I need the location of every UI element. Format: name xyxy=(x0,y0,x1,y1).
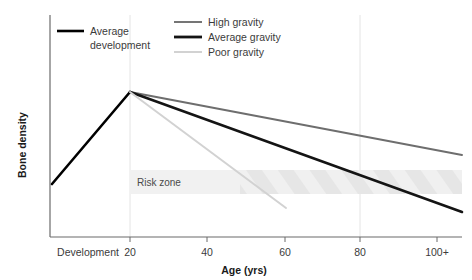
x-axis-tick-labels: Development 20 40 60 80 100+ xyxy=(57,246,449,258)
risk-zone-band: Risk zone xyxy=(130,170,462,194)
x-tick-label-60: 60 xyxy=(279,246,291,258)
x-tick-label-80: 80 xyxy=(354,246,366,258)
x-tick-label-development: Development xyxy=(57,246,119,258)
legend-item-average-gravity[interactable]: Average gravity xyxy=(174,31,282,43)
legend-average-development[interactable]: Average development xyxy=(57,25,150,51)
x-tick-label-40: 40 xyxy=(201,246,213,258)
legend-gravity-group: High gravity Average gravity Poor gravit… xyxy=(174,16,282,58)
risk-zone-label: Risk zone xyxy=(137,177,181,188)
legend-label-average-development-line1: Average xyxy=(90,25,129,37)
x-axis-ticks xyxy=(130,237,437,242)
legend-item-high-gravity[interactable]: High gravity xyxy=(174,16,264,28)
x-tick-label-100plus: 100+ xyxy=(425,246,449,258)
chart-canvas: Risk zone Development 20 40 60 80 100+ A… xyxy=(0,0,472,280)
series-line-average-development xyxy=(52,92,130,184)
y-axis-title: Bone density xyxy=(16,112,28,178)
legend-label-poor-gravity: Poor gravity xyxy=(208,46,265,58)
legend-label-average-gravity: Average gravity xyxy=(208,31,282,43)
bone-density-chart-figure: Risk zone Development 20 40 60 80 100+ A… xyxy=(0,0,472,280)
legend-label-high-gravity: High gravity xyxy=(208,16,264,28)
x-tick-label-20: 20 xyxy=(124,246,136,258)
series-line-high-gravity xyxy=(130,92,462,155)
x-axis-title: Age (yrs) xyxy=(221,264,267,276)
legend-item-poor-gravity[interactable]: Poor gravity xyxy=(174,46,265,58)
legend-label-average-development-line2: development xyxy=(90,39,150,51)
